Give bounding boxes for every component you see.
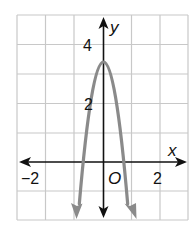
graph: y x O −2 2 4 2 [0,0,193,229]
x-tick-label-neg2: −2 [21,170,39,187]
y-axis [99,17,109,218]
origin-label: O [108,169,121,188]
y-tick-label-2: 2 [84,96,93,113]
grid [17,15,188,220]
y-axis-label: y [109,18,120,37]
curve-right-arrow-icon [125,203,137,219]
x-tick-label-2: 2 [153,170,162,187]
y-tick-label-4: 4 [83,37,92,54]
curve-left-arrow-icon [71,203,83,219]
x-axis-label: x [167,141,177,160]
